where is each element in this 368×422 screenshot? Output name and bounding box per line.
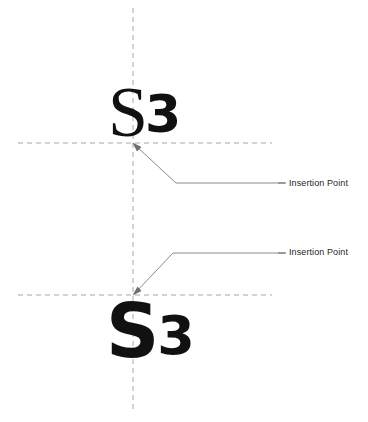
leader-line-top bbox=[136, 146, 285, 183]
top-text-sample: S3 bbox=[108, 76, 182, 148]
diagram-canvas: S3 S3 Insertion Point Insertion Point bbox=[0, 0, 368, 422]
insertion-point-label-top: Insertion Point bbox=[289, 178, 348, 188]
leader-line-bottom bbox=[136, 253, 285, 292]
top-sample-letter-s: S bbox=[108, 72, 146, 152]
bottom-text-sample: S3 bbox=[106, 294, 194, 368]
top-sample-letter-3: 3 bbox=[145, 84, 181, 144]
bottom-sample-letter-3: 3 bbox=[157, 304, 195, 367]
bottom-sample-letter-s: S bbox=[106, 288, 156, 374]
insertion-point-label-bottom: Insertion Point bbox=[289, 247, 348, 257]
